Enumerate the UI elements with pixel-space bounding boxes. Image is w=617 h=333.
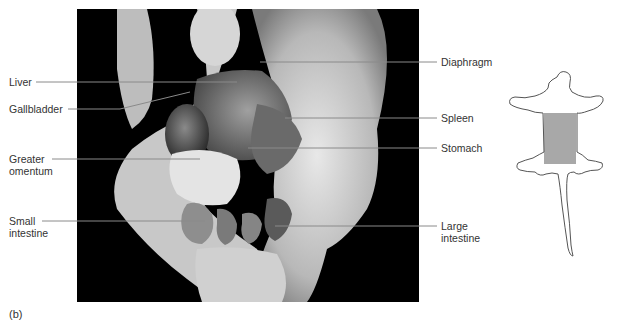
- label-greater-omentum-line2: omentum: [9, 165, 53, 177]
- label-large-intestine-line1: Large: [441, 220, 480, 232]
- label-small-intestine-line1: Small: [9, 215, 48, 227]
- label-diaphragm-text: Diaphragm: [441, 56, 492, 68]
- label-stomach-text: Stomach: [441, 142, 482, 154]
- label-spleen-text: Spleen: [441, 112, 474, 124]
- label-small-intestine-line2: intestine: [9, 227, 48, 239]
- label-greater-omentum-line1: Greater: [9, 153, 53, 165]
- rat-orientation-icon: [505, 65, 617, 260]
- dissection-illustration: [77, 9, 419, 302]
- label-gallbladder-text: Gallbladder: [9, 103, 63, 115]
- label-greater-omentum: Greater omentum: [9, 153, 53, 177]
- dissection-photo: [77, 9, 419, 302]
- label-small-intestine: Small intestine: [9, 215, 48, 239]
- label-gallbladder: Gallbladder: [9, 103, 63, 115]
- label-spleen: Spleen: [441, 112, 474, 124]
- label-large-intestine: Large intestine: [441, 220, 480, 244]
- label-liver-text: Liver: [9, 76, 32, 88]
- figure-caption: (b): [9, 308, 22, 320]
- label-liver: Liver: [9, 76, 32, 88]
- label-stomach: Stomach: [441, 142, 482, 154]
- label-large-intestine-line2: intestine: [441, 232, 480, 244]
- label-diaphragm: Diaphragm: [441, 56, 492, 68]
- highlighted-region: [544, 113, 576, 164]
